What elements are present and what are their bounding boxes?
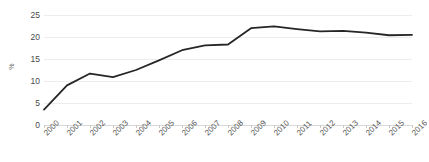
- y-tick-label: 15: [31, 55, 40, 63]
- x-tick-label: 2016: [410, 118, 429, 137]
- y-axis-title: %: [8, 58, 15, 76]
- y-tick-label: 5: [35, 99, 40, 107]
- series-polyline: [44, 26, 412, 109]
- y-tick-label: 10: [31, 77, 40, 85]
- y-tick-label: 25: [31, 11, 40, 19]
- y-tick-label: 20: [31, 33, 40, 41]
- data-line-series: [44, 15, 412, 125]
- x-axis-tick-labels: 2000200120022003200420052006200720082009…: [0, 125, 418, 162]
- plot-area: [44, 15, 412, 125]
